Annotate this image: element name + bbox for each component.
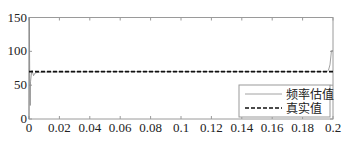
x-tick-label: 0.04 xyxy=(78,120,101,135)
x-tick-label: 0.1 xyxy=(173,120,189,135)
y-tick-label: 150 xyxy=(8,10,28,25)
x-tick-label: 0.18 xyxy=(291,120,314,135)
x-tick-label: 0.14 xyxy=(230,120,253,135)
y-tick-label: 0 xyxy=(21,111,28,126)
x-tick-label: 0.02 xyxy=(48,120,71,135)
legend-label-estimate: 频率估值 xyxy=(286,87,334,102)
x-tick-label: 0.08 xyxy=(139,120,162,135)
y-tick-label: 100 xyxy=(8,43,28,58)
frequency-estimate-chart: 00.020.040.060.080.10.120.140.160.180.2 … xyxy=(0,0,351,146)
y-tick-label: 50 xyxy=(14,77,27,92)
x-tick-label: 0.12 xyxy=(200,120,223,135)
legend: 频率估值 真实值 xyxy=(239,85,334,117)
legend-label-true: 真实值 xyxy=(286,101,322,116)
x-tick-label: 0.2 xyxy=(325,120,341,135)
x-tick-label: 0.06 xyxy=(109,120,132,135)
x-tick-label: 0.16 xyxy=(261,120,284,135)
